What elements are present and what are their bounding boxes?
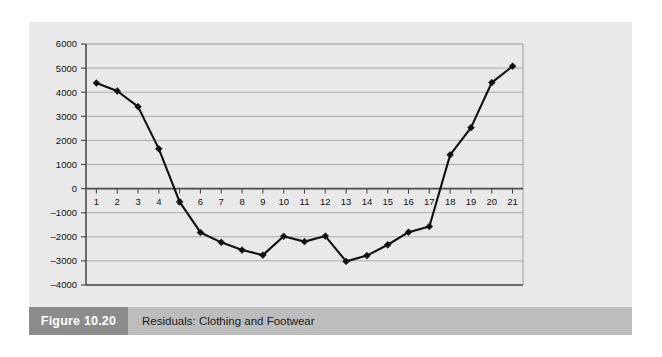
x-tick-label: 3 <box>135 196 140 207</box>
data-point-marker <box>218 239 225 246</box>
x-tick-label: 18 <box>445 196 456 207</box>
figure-caption-bar: Figure 10.20 Residuals: Clothing and Foo… <box>29 307 632 335</box>
x-tick-label: 21 <box>507 196 518 207</box>
gridlines <box>86 44 523 285</box>
x-tick-label: 17 <box>424 196 435 207</box>
figure-title-label: Residuals: Clothing and Footwear <box>142 307 315 335</box>
figure-number-box: Figure 10.20 <box>29 307 128 335</box>
figure-container: 6000500040003000200010000–1000–2000–3000… <box>0 0 662 357</box>
y-tick-label: 6000 <box>56 38 77 49</box>
data-point-marker <box>301 238 308 245</box>
y-tick-label: –2000 <box>51 231 77 242</box>
x-tick-label: 4 <box>156 196 161 207</box>
x-tick-label: 10 <box>278 196 289 207</box>
y-tick-label: 1000 <box>56 159 77 170</box>
y-tick-label: 4000 <box>56 87 77 98</box>
x-tick-label: 13 <box>341 196 352 207</box>
x-tick-label: 2 <box>115 196 120 207</box>
x-tick-label: 8 <box>239 196 244 207</box>
chart-panel: 6000500040003000200010000–1000–2000–3000… <box>29 22 632 307</box>
x-tick-label: 20 <box>486 196 497 207</box>
x-tick-label: 15 <box>382 196 393 207</box>
series-line-residuals <box>96 66 512 261</box>
x-tick-label: 7 <box>219 196 224 207</box>
data-point-marker <box>155 145 162 152</box>
x-tick-label: 9 <box>260 196 265 207</box>
y-axis-tick-labels: 6000500040003000200010000–1000–2000–3000… <box>51 38 77 290</box>
y-tick-label: 5000 <box>56 63 77 74</box>
x-tick-label: 12 <box>320 196 331 207</box>
x-axis-tick-labels: 123456789101112131415161718192021 <box>94 196 518 207</box>
data-point-marker <box>239 247 246 254</box>
figure-number-label: Figure 10.20 <box>41 314 116 328</box>
x-tick-label: 1 <box>94 196 99 207</box>
y-tick-label: 3000 <box>56 111 77 122</box>
y-tick-label: –4000 <box>51 279 77 290</box>
y-tick-label: 2000 <box>56 135 77 146</box>
series-markers <box>93 63 516 265</box>
y-tick-label: –3000 <box>51 255 77 266</box>
data-point-marker <box>93 80 100 87</box>
series-residuals <box>96 66 512 261</box>
x-tick-label: 11 <box>300 196 310 207</box>
x-tick-label: 14 <box>362 196 373 207</box>
y-tick-label: 0 <box>72 183 77 194</box>
x-tick-label: 16 <box>403 196 414 207</box>
residuals-line-chart: 6000500040003000200010000–1000–2000–3000… <box>29 22 632 307</box>
data-point-marker <box>426 223 433 230</box>
x-tick-label: 6 <box>198 196 203 207</box>
x-tick-label: 5 <box>177 196 182 207</box>
y-tick-label: –1000 <box>51 207 77 218</box>
x-tick-label: 19 <box>466 196 477 207</box>
